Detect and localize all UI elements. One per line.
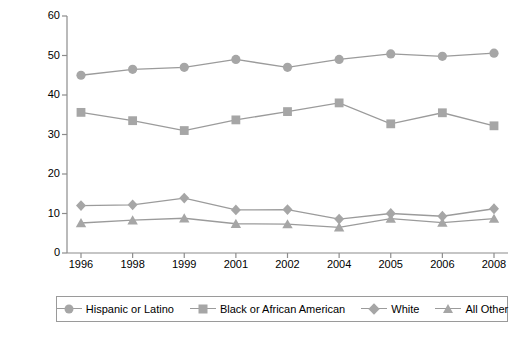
legend-label: Black or African American [220, 303, 345, 315]
legend-square-icon [190, 303, 216, 315]
data-point [490, 121, 499, 130]
data-point [489, 49, 498, 58]
legend-triangle-icon [435, 303, 461, 315]
y-tick-label: 60 [36, 10, 60, 21]
y-tick-label: 40 [36, 89, 60, 100]
data-point [128, 116, 137, 125]
x-tick-label: 2008 [471, 259, 517, 270]
data-point [231, 115, 240, 124]
y-tick-label: 30 [36, 129, 60, 140]
series-2 [77, 99, 499, 135]
plot-area [0, 0, 522, 337]
x-tick-label: 2002 [265, 259, 311, 270]
data-point [179, 193, 189, 204]
y-tick-label: 50 [36, 50, 60, 61]
x-tick-label: 2005 [368, 259, 414, 270]
data-point [386, 49, 395, 58]
data-point [489, 203, 499, 214]
x-tick-label: 2004 [316, 259, 362, 270]
y-tick-label: 10 [36, 208, 60, 219]
data-point [231, 55, 240, 64]
data-point [283, 107, 292, 116]
legend-item[interactable]: White [361, 303, 419, 315]
series-1 [76, 49, 498, 80]
data-point [76, 200, 86, 211]
data-point [283, 204, 293, 215]
data-point [335, 99, 344, 108]
legend-item[interactable]: All Other [435, 303, 508, 315]
legend-item[interactable]: Black or African American [190, 303, 345, 315]
data-point [180, 126, 189, 135]
y-tick-label: 20 [36, 168, 60, 179]
data-point [76, 71, 85, 80]
x-tick-label: 1998 [110, 259, 156, 270]
data-point [231, 205, 241, 216]
x-tick-label: 1996 [58, 259, 104, 270]
legend-item[interactable]: Hispanic or Latino [56, 303, 174, 315]
data-point [335, 55, 344, 64]
legend-label: Hispanic or Latino [86, 303, 174, 315]
data-point [438, 108, 447, 117]
data-point [489, 214, 499, 223]
data-point [77, 108, 86, 117]
series-line [81, 103, 494, 131]
data-point [386, 119, 395, 128]
legend-circle-icon [56, 303, 82, 315]
data-point [128, 65, 137, 74]
line-chart: Percent 0102030405060 199619981999200120… [0, 0, 522, 337]
data-point [438, 52, 447, 61]
data-point [386, 214, 396, 223]
data-point [128, 199, 138, 210]
x-tick-label: 2006 [419, 259, 465, 270]
legend-label: All Other [465, 303, 508, 315]
y-tick-label: 0 [36, 247, 60, 258]
legend-label: White [391, 303, 419, 315]
data-point [180, 63, 189, 72]
legend-diamond-icon [361, 303, 387, 315]
x-tick-label: 1999 [161, 259, 207, 270]
data-point [283, 63, 292, 72]
x-tick-label: 2001 [213, 259, 259, 270]
chart-legend: Hispanic or LatinoBlack or African Ameri… [56, 296, 508, 322]
